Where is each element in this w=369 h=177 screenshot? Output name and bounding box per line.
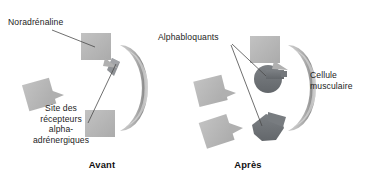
label-alphablockers: Alphabloquants	[158, 32, 219, 43]
caption-avant: Avant	[72, 159, 132, 170]
muscle-cell-left	[120, 45, 148, 131]
alphablocker-lower	[252, 112, 286, 141]
label-muscle-cell: Cellule musculaire	[310, 70, 368, 91]
panel-apres	[193, 36, 316, 149]
cell-membrane-left	[120, 45, 148, 131]
molecule-square	[199, 114, 243, 149]
receptor-notch-open-left	[112, 85, 124, 91]
molecule-square	[250, 36, 288, 70]
label-receptor-site: Site des récepteurs alpha- adrénergiques	[18, 103, 104, 145]
molecule-square	[193, 75, 236, 107]
caption-apres: Après	[218, 159, 278, 170]
label-noradrenaline: Noradrénaline	[8, 17, 63, 28]
